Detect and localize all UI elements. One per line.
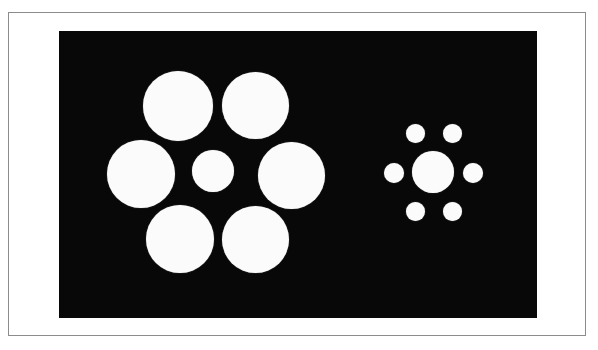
right-surround-bottom-left-circle xyxy=(406,202,425,221)
right-center-circle xyxy=(412,151,454,193)
right-surround-top-right-circle xyxy=(443,124,462,143)
illusion-figure xyxy=(0,0,598,350)
right-surround-right-circle xyxy=(463,163,483,183)
stimulus-panel xyxy=(59,31,537,318)
right-surround-left-circle xyxy=(384,163,404,183)
right-circle-cluster xyxy=(59,31,537,318)
right-surround-bottom-right-circle xyxy=(443,202,462,221)
right-surround-top-left-circle xyxy=(406,124,425,143)
